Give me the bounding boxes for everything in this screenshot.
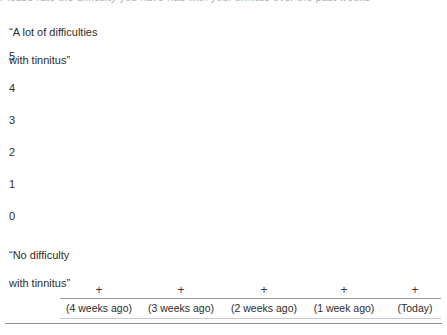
x-axis-tick-mark-5: + [411, 284, 418, 296]
x-axis-label-1-week-ago: (1 week ago) [314, 301, 375, 315]
y-axis-anchor-high-line1: “A lot of difficulties [9, 25, 97, 39]
tinnitus-rating-chart: Please rate the difficulty you have had … [0, 0, 447, 335]
x-axis-label-2-weeks-ago: (2 weeks ago) [231, 301, 297, 315]
y-axis-anchor-low-line1: “No difficulty [9, 248, 70, 262]
y-axis-tick-2: 2 [9, 146, 33, 178]
y-axis-tick-3: 3 [9, 114, 33, 146]
x-axis-label-today: (Today) [397, 301, 432, 315]
x-axis: + + + + + (4 weeks ago) (3 weeks ago) (2… [60, 283, 441, 321]
x-axis-label-3-weeks-ago: (3 weeks ago) [148, 301, 214, 315]
x-axis-tick-mark-3: + [260, 284, 267, 296]
clipped-header-text: Please rate the difficulty you have had … [0, 0, 447, 3]
y-axis-tick-1: 1 [9, 178, 33, 210]
x-axis-tick-marks: + + + + + [60, 283, 441, 298]
x-axis-line [60, 298, 441, 299]
y-axis-tick-5: 5 [9, 50, 33, 82]
x-axis-tick-mark-1: + [95, 284, 102, 296]
x-axis-tick-mark-2: + [177, 284, 184, 296]
x-axis-tick-mark-4: + [340, 284, 347, 296]
x-axis-label-4-weeks-ago: (4 weeks ago) [66, 301, 132, 315]
x-axis-labels: (4 weeks ago) (3 weeks ago) (2 weeks ago… [60, 301, 441, 317]
x-axis-label-underline [60, 318, 441, 319]
y-axis-scale: 5 4 3 2 1 0 [9, 50, 33, 242]
y-axis-tick-4: 4 [9, 82, 33, 114]
bottom-divider [5, 323, 442, 324]
